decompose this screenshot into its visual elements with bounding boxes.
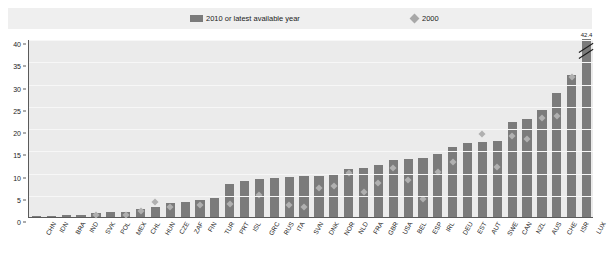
x-axis-label-pol: POL [119,221,131,236]
x-axis-label-isr: ISR [579,221,590,234]
y-axis-label: 10 [13,174,21,181]
gridline [29,85,593,86]
x-axis-label-can: CAN [521,221,533,236]
x-axis-label-irl: IRL [445,221,456,233]
chart-legend: 2010 or latest available year 2000 [8,8,592,29]
x-axis-label-nor: NOR [343,221,356,237]
x-axis-label-lux: LUX [595,221,607,235]
x-axis-label-gbr: GBR [387,221,400,236]
x-axis-label-usa: USA [402,221,414,236]
y-axis-tick [23,155,26,156]
x-axis-label-che: CHE [566,221,578,236]
bar-zaf [181,202,190,217]
y-axis-tick [23,222,26,223]
y-axis-tick [23,199,26,200]
bar-nzl [522,119,531,217]
x-axis-label-hun: HUN [164,221,177,236]
plot-area: 42.4 [28,40,593,218]
x-axis-label-tur: TUR [224,221,236,236]
y-axis-label: 40 [13,41,21,48]
legend-label-bar: 2010 or latest available year [206,15,300,23]
x-axis-label-svk: SVK [104,221,116,236]
bar-bel [404,159,413,217]
y-axis-tick [23,177,26,178]
x-axis-label-chl: CHL [149,221,161,236]
bar-swe [493,141,502,217]
bar-chn [32,216,41,217]
gridline [29,129,593,130]
bar-est [463,143,472,217]
diamond-marker-aut [479,131,486,138]
x-axis-label-dnk: DNK [328,221,340,236]
y-axis-label: 15 [13,152,21,159]
bar-idn [47,216,56,217]
bar-aus [537,110,546,217]
bar-hun [151,207,160,217]
legend-entry-bar: 2010 or latest available year [190,8,300,29]
bar-tur [210,198,219,217]
gridline [29,40,593,41]
gridline [29,151,593,152]
bar-pol [106,212,115,217]
legend-label-diamond: 2000 [422,15,439,23]
x-axis-label-ita: ITA [296,221,306,233]
y-axis-label: 0 [17,219,21,226]
bar-isl [240,181,249,217]
bar-rus [270,178,279,217]
diamond-swatch-icon [410,14,420,24]
x-axis-label-cze: CZE [179,221,191,236]
y-axis-label: 30 [13,85,21,92]
gridline [29,62,593,63]
x-axis-label-bra: BRA [75,221,87,236]
x-axis-label-nzl: NZL [535,221,547,235]
x-axis-label-nld: NLD [357,221,369,236]
chart-plot-wrapper: 0510152025303540 42.4 CHNIDNBRAINDSVKPOL… [0,36,600,260]
y-axis-label: 20 [13,130,21,137]
bar-esp [418,158,427,217]
x-axis-label-aut: AUT [491,221,503,236]
bar-swatch-icon [190,15,203,22]
x-axis: CHNIDNBRAINDSVKPOLMEXCHLHUNCZEZAFFINTURP… [28,219,593,260]
x-axis-label-isl: ISL [251,221,262,233]
x-axis-label-svn: SVN [313,221,325,236]
y-axis-label: 35 [13,63,21,70]
x-axis-label-fra: FRA [372,221,384,236]
bar-bra [62,215,71,217]
x-axis-label-fin: FIN [207,221,218,233]
y-axis-tick [23,110,26,111]
gridline [29,107,593,108]
x-axis-label-deu: DEU [462,221,474,236]
x-axis-label-est: EST [476,221,488,235]
bar-lux [582,39,591,217]
x-axis-label-idn: IDN [59,221,70,234]
x-axis-label-ind: IND [89,221,100,234]
y-axis-tick [23,88,26,89]
x-axis-label-prt: PRT [238,221,250,235]
legend-entry-diamond: 2000 [411,8,439,29]
x-axis-label-swe: SWE [507,221,520,237]
y-axis-label: 25 [13,107,21,114]
bar-ita [285,177,294,217]
y-axis: 0510152025303540 [0,40,26,218]
x-axis-label-chn: CHN [45,221,58,236]
axis-break-icon [579,52,595,63]
bar-aut [478,142,487,217]
y-axis-tick [23,66,26,67]
x-axis-label-mex: MEX [135,221,148,236]
x-axis-label-bel: BEL [416,221,428,235]
bar-ind [76,215,85,217]
y-axis-label: 5 [17,196,21,203]
bar-value-label-lux: 42.4 [581,32,593,38]
x-axis-label-grc: GRC [269,221,282,237]
y-axis-tick [23,133,26,134]
gridline [29,174,593,175]
gridline [29,196,593,197]
x-axis-label-esp: ESP [432,221,444,236]
diamond-marker-hun [152,199,159,206]
bar-irl [433,154,442,217]
x-axis-label-aus: AUS [551,221,563,236]
y-axis-tick [23,44,26,45]
diamond-marker-svk [92,211,99,218]
x-axis-label-zaf: ZAF [193,221,205,235]
